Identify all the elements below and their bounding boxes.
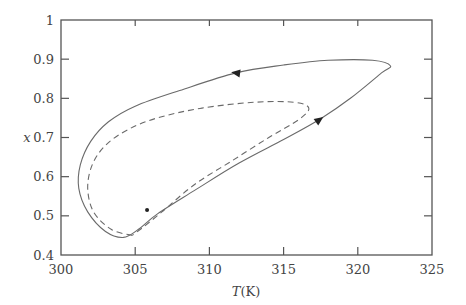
y-tick-label: 0.8	[33, 91, 54, 106]
x-tick-label: 320	[345, 262, 370, 277]
trajectory-dashed-curve	[88, 102, 309, 236]
y-tick-label: 1	[46, 13, 54, 28]
y-tick-label: 0.6	[33, 169, 54, 184]
x-axis-label: T(K)	[232, 284, 261, 299]
direction-arrow-icon	[231, 68, 241, 77]
curves	[78, 60, 391, 238]
x-axis-ticks: 300305310315320325	[49, 20, 445, 277]
y-axis-label: x	[23, 130, 31, 145]
x-tick-label: 305	[123, 262, 148, 277]
limit-cycle-solid-curve	[78, 60, 391, 238]
chart: 300305310315320325 0.40.50.60.70.80.91 T…	[0, 0, 466, 305]
x-tick-label: 300	[49, 262, 74, 277]
direction-arrow-icon	[314, 114, 326, 126]
y-tick-label: 0.5	[33, 208, 54, 223]
y-tick-label: 0.4	[33, 248, 54, 263]
y-tick-label: 0.7	[33, 130, 54, 145]
y-tick-label: 0.9	[33, 52, 54, 67]
plot-frame	[61, 20, 432, 255]
x-tick-label: 310	[197, 262, 222, 277]
x-tick-label: 315	[271, 262, 296, 277]
x-tick-label: 325	[420, 262, 445, 277]
fixed-point-marker	[145, 208, 149, 212]
